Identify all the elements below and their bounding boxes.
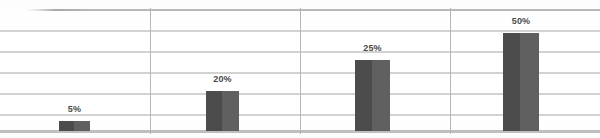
data-label-bar-1: 5% — [54, 104, 95, 115]
bar-1 — [59, 121, 90, 131]
bar-4-shade-light — [520, 33, 539, 131]
bar-chart: 5% 20% 25% 50% — [0, 0, 600, 138]
data-label-bar-3: 25% — [350, 43, 395, 54]
bar-1-shade-light — [74, 121, 90, 131]
plot-area: 5% 20% 25% 50% — [0, 0, 600, 138]
data-label-bar-2: 20% — [201, 74, 244, 85]
category-separator-2 — [300, 8, 301, 134]
category-separator-1 — [150, 8, 151, 134]
bar-2-shade-light — [222, 91, 239, 131]
bar-3-shade-light — [372, 60, 390, 131]
bar-3 — [355, 60, 390, 131]
bar-4-shade-dark — [503, 33, 520, 131]
data-label-bar-4: 50% — [498, 16, 544, 27]
category-separator-3 — [450, 8, 451, 134]
bar-1-shade-dark — [59, 121, 74, 131]
bar-4 — [503, 33, 539, 131]
bar-2-shade-dark — [206, 91, 222, 131]
bar-3-shade-dark — [355, 60, 372, 131]
bar-2 — [206, 91, 239, 131]
